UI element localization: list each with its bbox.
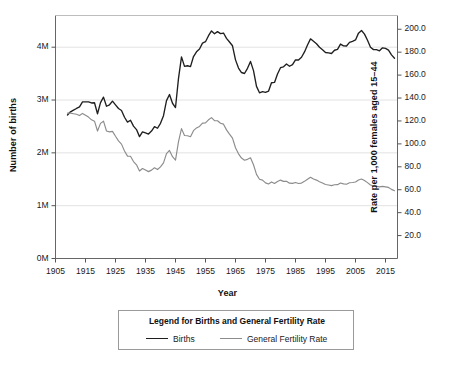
y-right-tick-label: 140.0: [405, 92, 465, 102]
x-tick-label: 2015: [366, 266, 406, 276]
y-axis-right-title: Rate per 1,000 females aged 15–44: [369, 42, 379, 232]
y-left-tick-label: 4M: [0, 41, 49, 51]
births-fertility-chart: 0M1M2M3M4M 20.040.060.080.0100.0120.0140…: [0, 0, 475, 375]
series-line-0: [68, 31, 395, 137]
tick-marks: [52, 29, 402, 262]
y-left-tick-label: 0M: [0, 253, 49, 263]
y-right-tick-label: 20.0: [405, 230, 465, 240]
y-right-tick-label: 60.0: [405, 184, 465, 194]
chart-legend: Legend for Births and General Fertility …: [118, 310, 354, 350]
y-right-tick-label: 160.0: [405, 69, 465, 79]
y-right-tick-label: 100.0: [405, 138, 465, 148]
y-left-tick-label: 1M: [0, 200, 49, 210]
legend-label-births: Births: [173, 334, 195, 344]
y-right-tick-label: 40.0: [405, 207, 465, 217]
y-right-tick-label: 180.0: [405, 46, 465, 56]
axis-lines: [56, 16, 398, 259]
legend-title: Legend for Births and General Fertility …: [119, 316, 355, 326]
legend-line-swatch-general-fertility-rate: [220, 338, 242, 339]
legend-label-general-fertility-rate: General Fertility Rate: [247, 334, 327, 344]
series-lines: [68, 31, 395, 191]
legend-item-general-fertility-rate: General Fertility Rate: [220, 332, 327, 345]
legend-item-births: Births: [146, 332, 195, 345]
y-right-tick-label: 200.0: [405, 23, 465, 33]
gridlines: [56, 47, 398, 205]
x-axis-title: Year: [0, 288, 455, 298]
legend-line-swatch-births: [146, 338, 168, 339]
series-line-1: [68, 113, 395, 191]
y-right-tick-label: 120.0: [405, 115, 465, 125]
y-axis-left-title: Number of births: [8, 75, 18, 195]
y-right-tick-label: 80.0: [405, 161, 465, 171]
